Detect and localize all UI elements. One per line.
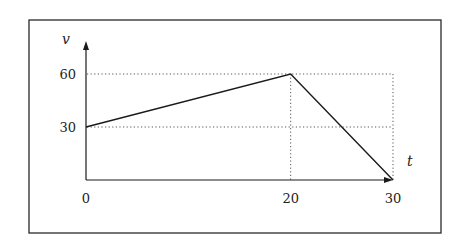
- x-tick-label: 0: [82, 191, 90, 206]
- x-axis-label: t: [407, 153, 413, 169]
- x-tick-label: 20: [282, 191, 299, 206]
- grid-lines: [87, 74, 393, 180]
- x-tick-label: 30: [385, 191, 402, 206]
- y-tick-labels: 3060: [59, 67, 76, 135]
- axes: [83, 41, 393, 183]
- velocity-time-chart: 02030 3060 v t: [0, 0, 459, 248]
- y-tick-label: 60: [59, 67, 76, 82]
- y-axis-label: v: [62, 31, 70, 47]
- x-tick-labels: 02030: [82, 191, 401, 206]
- y-axis-arrow-icon: [83, 41, 89, 50]
- y-tick-label: 30: [59, 120, 76, 135]
